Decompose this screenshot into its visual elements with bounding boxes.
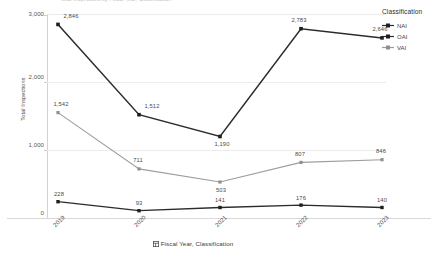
legend-title: Classification xyxy=(382,8,438,15)
y-tick-label-1000: 1,000 xyxy=(10,142,44,148)
x-axis-title-text: Fiscal Year, Classification xyxy=(161,240,234,247)
point-label-vai-2021: 503 xyxy=(216,187,226,193)
point-label-nai-2021: 1,190 xyxy=(214,141,229,147)
series-markers-nai xyxy=(56,23,384,139)
series-markers-vai xyxy=(56,111,383,184)
series-line-nai xyxy=(58,24,382,136)
point-label-oai-2023: 140 xyxy=(377,197,387,203)
point-label-vai-2022: 807 xyxy=(295,151,305,157)
legend-item-oai[interactable]: OAI xyxy=(382,31,438,42)
x-axis-title[interactable]: Fiscal Year, Classification xyxy=(0,240,386,248)
legend-item-vai[interactable]: VAI xyxy=(382,42,438,53)
legend-item-nai[interactable]: NAI xyxy=(382,20,438,31)
point-label-nai-2022: 2,783 xyxy=(291,17,306,23)
point-label-vai-2019: 1,542 xyxy=(53,101,68,107)
point-label-vai-2020: 711 xyxy=(133,157,143,163)
legend-label-nai: NAI xyxy=(397,23,407,29)
line-chart: Total Inspections by Fiscal Year, Classi… xyxy=(0,0,438,257)
plot-area: 2,846 1,512 1,190 2,783 2,646 1,542 711 … xyxy=(47,14,386,217)
point-label-nai-2019: 2,846 xyxy=(63,13,78,19)
point-label-nai-2020: 1,512 xyxy=(144,103,159,109)
diamond-marker-icon xyxy=(382,44,394,51)
y-tick-label-0: 0 xyxy=(10,210,44,216)
field-grid-icon xyxy=(153,241,159,248)
chart-title-clipped: Total Inspections by Fiscal Year, Classi… xyxy=(60,0,360,4)
point-label-oai-2020: 93 xyxy=(136,200,143,206)
point-label-oai-2022: 176 xyxy=(296,195,306,201)
y-tick-label-3000: 3,000 xyxy=(10,11,44,17)
legend-label-oai: OAI xyxy=(397,34,407,40)
series-line-vai xyxy=(58,113,382,182)
legend-label-vai: VAI xyxy=(397,45,406,51)
point-label-oai-2019: 228 xyxy=(54,191,64,197)
diamond-marker-icon xyxy=(382,22,394,29)
point-label-vai-2023: 846 xyxy=(376,148,386,154)
point-label-oai-2021: 141 xyxy=(215,197,225,203)
y-tick-label-2000: 2,000 xyxy=(10,74,44,80)
diamond-marker-icon xyxy=(382,33,394,40)
legend: Classification NAI OAI xyxy=(382,8,438,53)
